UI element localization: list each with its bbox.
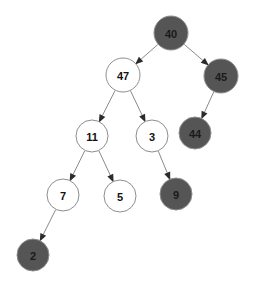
tree-node-circle[interactable] <box>47 179 79 211</box>
tree-node[interactable]: 3 <box>136 120 168 152</box>
edge-arrowhead-icon <box>40 233 46 242</box>
tree-node-circle[interactable] <box>154 16 188 50</box>
tree-edge <box>201 92 214 119</box>
edge-arrowhead-icon <box>99 114 105 123</box>
edge-arrowhead-icon <box>164 172 170 181</box>
tree-node-circle[interactable] <box>104 180 136 212</box>
tree-node[interactable]: 45 <box>204 59 238 93</box>
tree-node[interactable]: 11 <box>76 120 108 152</box>
tree-node-circle[interactable] <box>76 120 108 152</box>
tree-edge <box>99 151 114 182</box>
tree-node[interactable]: 40 <box>154 16 188 50</box>
tree-edge <box>70 151 85 182</box>
tree-node[interactable]: 44 <box>179 117 211 149</box>
tree-node-circle[interactable] <box>204 59 238 93</box>
tree-node-circle[interactable] <box>17 239 49 271</box>
tree-edge <box>40 210 56 242</box>
tree-node[interactable]: 2 <box>17 239 49 271</box>
edge-arrowhead-icon <box>139 114 145 123</box>
tree-edge <box>158 151 170 180</box>
tree-node-circle[interactable] <box>179 117 211 149</box>
tree-node-circle[interactable] <box>106 58 140 92</box>
tree-edge <box>99 91 115 123</box>
binary-tree-diagram: 404745113447592 <box>0 0 256 282</box>
tree-node-circle[interactable] <box>160 178 192 210</box>
tree-node-circle[interactable] <box>136 120 168 152</box>
tree-edge <box>184 44 209 65</box>
edge-arrowhead-icon <box>70 173 76 182</box>
tree-node[interactable]: 47 <box>106 58 140 92</box>
nodes-layer: 404745113447592 <box>17 16 238 271</box>
edge-arrowhead-icon <box>201 111 207 120</box>
tree-node[interactable]: 9 <box>160 178 192 210</box>
tree-node[interactable]: 7 <box>47 179 79 211</box>
tree-edge <box>135 45 158 65</box>
tree-node[interactable]: 5 <box>104 180 136 212</box>
edge-arrowhead-icon <box>107 174 113 183</box>
tree-svg-canvas: 404745113447592 <box>0 0 256 282</box>
tree-edge <box>131 91 146 123</box>
